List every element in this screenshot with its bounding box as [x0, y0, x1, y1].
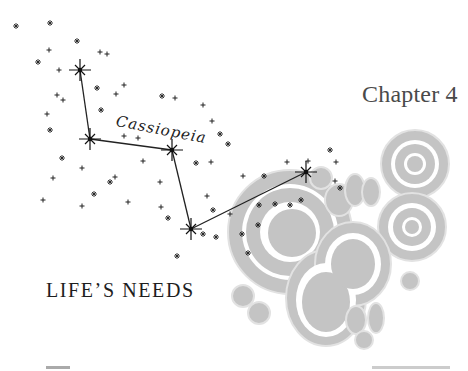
chapter-number: Chapter 4 — [362, 81, 458, 108]
cells-graphic — [228, 130, 449, 349]
cut-off-text-fragment — [46, 366, 70, 369]
cut-off-text-fragment — [372, 366, 450, 369]
chapter-title: LIFE’S NEEDS — [46, 279, 195, 302]
chapter-illustration — [0, 0, 468, 371]
